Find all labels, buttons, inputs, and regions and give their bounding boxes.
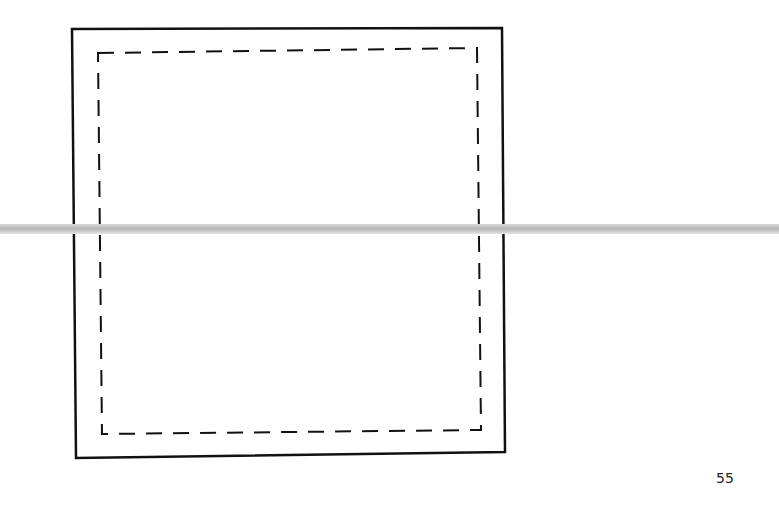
- outer-square: [72, 28, 505, 458]
- square-figure: [0, 0, 779, 507]
- scan-band: [0, 224, 779, 234]
- document-page: 55: [0, 0, 779, 507]
- page-number: 55: [716, 470, 734, 486]
- inner-dashed-square: [98, 48, 481, 434]
